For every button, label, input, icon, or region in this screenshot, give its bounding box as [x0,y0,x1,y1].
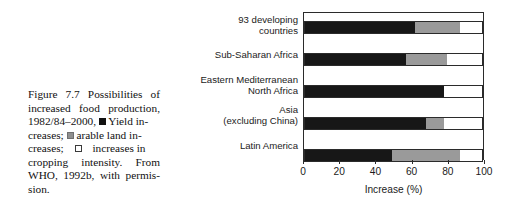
bar-segment-yield-increases[interactable] [304,85,444,98]
category-label-line: countries [108,25,298,36]
x-tick-label: 80 [442,166,453,177]
x-tick [303,160,304,164]
x-tick-label: 20 [334,166,345,177]
bar-93-developing-countries[interactable] [304,21,483,34]
bar-asia-excluding-china[interactable] [304,117,483,130]
category-label-latin-america: Latin America [108,140,298,151]
x-tick [375,160,376,164]
bar-segment-yield-increases[interactable] [304,21,415,34]
category-label-line: North Africa [108,85,298,96]
bar-segment-yield-increases[interactable] [304,149,392,162]
category-label-line: 93 developing [108,14,298,25]
bar-segment-increases-in-cropping-intensity[interactable] [444,85,483,98]
x-tick-label: 60 [406,166,417,177]
category-label-eastern-mediterranean-north-africa: Eastern Mediterranean North Africa [108,74,298,96]
bar-segment-arable-land-increases[interactable] [392,149,460,162]
bar-segment-arable-land-increases[interactable] [415,21,460,34]
x-tick [412,160,413,164]
x-tick [484,160,485,164]
bar-segment-increases-in-cropping-intensity[interactable] [460,21,483,34]
bar-segment-increases-in-cropping-intensity[interactable] [444,117,483,130]
plot-area [303,12,484,160]
bar-sub-saharan-africa[interactable] [304,53,483,66]
x-tick-label: 0 [300,166,306,177]
x-tick-label: 100 [476,166,493,177]
x-tick-label: 40 [370,166,381,177]
category-label-line: Eastern Mediterranean [108,74,298,85]
category-label-93-developing-countries: 93 developing countries [108,14,298,36]
bar-segment-yield-increases[interactable] [304,53,406,66]
category-label-sub-saharan-africa: Sub-Saharan Africa [108,49,298,60]
x-tick [339,160,340,164]
x-axis-title: Increase (%) [303,184,484,195]
bar-segment-arable-land-increases[interactable] [406,53,447,66]
x-tick [448,160,449,164]
category-label-line: Latin America [108,140,298,151]
bar-segment-increases-in-cropping-intensity[interactable] [447,53,483,66]
category-label-line: (excluding China) [108,115,298,126]
category-label-asia-excluding-china: Asia (excluding China) [108,104,298,126]
bar-chart: 93 developing countries Sub-Saharan Afri… [0,0,514,222]
bar-eastern-mediterranean-north-africa[interactable] [304,85,483,98]
bar-segment-arable-land-increases[interactable] [426,117,444,130]
bar-latin-america[interactable] [304,149,483,162]
category-label-line: Asia [108,104,298,115]
bar-segment-yield-increases[interactable] [304,117,426,130]
bar-segment-increases-in-cropping-intensity[interactable] [460,149,483,162]
category-label-line: Sub-Saharan Africa [108,49,298,60]
